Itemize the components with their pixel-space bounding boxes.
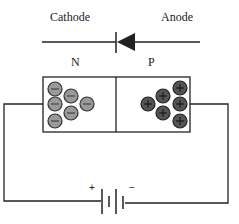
diode-symbol [42,32,200,53]
battery-positive-label: + [89,182,95,193]
hole [156,89,170,103]
hole [141,97,155,111]
hole [173,81,187,95]
n-region-label: N [71,55,80,69]
electron [48,82,62,96]
electron [64,89,78,103]
electron [64,106,78,120]
battery-negative-label: − [129,182,135,193]
electron [48,97,62,111]
anode-label: Anode [161,10,193,24]
hole [173,97,187,111]
hole [156,106,170,120]
pn-junction [43,77,190,132]
p-region-label: P [148,55,155,69]
diode-diagram: Cathode Anode N P [0,0,239,224]
battery-icon [102,189,123,214]
hole [173,114,187,128]
anode-triangle [117,33,135,51]
cathode-label: Cathode [50,10,90,24]
electron [48,114,62,128]
electron [80,97,94,111]
